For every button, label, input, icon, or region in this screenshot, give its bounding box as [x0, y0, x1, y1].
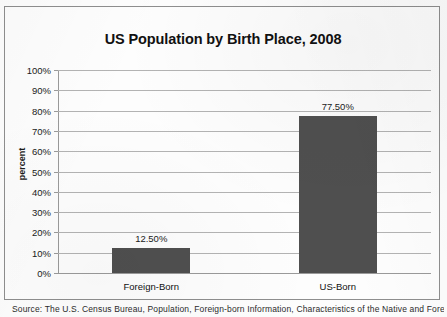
gridline [58, 70, 431, 71]
y-axis-tick [54, 151, 58, 152]
y-tick-label: 80% [32, 105, 51, 116]
y-tick-label: 30% [32, 207, 51, 218]
y-axis-title: percent [17, 134, 27, 194]
y-tick-label: 60% [32, 146, 51, 157]
plot-area: 100%90%80%70%60%50%40%30%20%10%0% 12.50%… [58, 70, 431, 273]
y-tick-label: 50% [32, 166, 51, 177]
y-axis-tick [54, 232, 58, 233]
chart-frame: US Population by Birth Place, 2008 perce… [4, 6, 440, 300]
y-axis-tick [54, 90, 58, 91]
source-caption-text: Source: The U.S. Census Bureau, Populati… [12, 305, 444, 314]
bar-foreign-born [112, 248, 190, 273]
chart-title: US Population by Birth Place, 2008 [5, 31, 441, 47]
source-caption: Source: The U.S. Census Bureau, Populati… [4, 305, 444, 317]
gridline [58, 273, 431, 274]
y-axis-tick [54, 253, 58, 254]
y-tick-label: 90% [32, 85, 51, 96]
y-axis-tick [54, 192, 58, 193]
bar-value-label: 12.50% [135, 233, 167, 244]
y-axis-tick [54, 273, 58, 274]
y-tick-label: 10% [32, 247, 51, 258]
category-label: Foreign-Born [124, 281, 179, 292]
gridline [58, 90, 431, 91]
bar-us-born [299, 116, 377, 273]
y-axis-tick [54, 172, 58, 173]
y-tick-label: 70% [32, 125, 51, 136]
y-axis-tick [54, 111, 58, 112]
bar-value-label: 77.50% [322, 101, 354, 112]
category-label: US-Born [320, 281, 356, 292]
y-tick-label: 40% [32, 186, 51, 197]
y-tick-label: 100% [27, 65, 51, 76]
y-axis-tick [54, 131, 58, 132]
y-axis-tick [54, 70, 58, 71]
y-tick-label: 20% [32, 227, 51, 238]
y-axis-tick [54, 212, 58, 213]
chart-page: US Population by Birth Place, 2008 perce… [0, 0, 447, 317]
y-tick-label: 0% [37, 268, 51, 279]
gridline [58, 111, 431, 112]
